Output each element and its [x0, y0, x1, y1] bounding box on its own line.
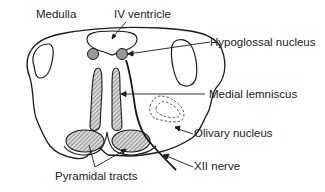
label-xii-nerve: XII nerve	[194, 161, 240, 173]
label-pyramidal-tracts: Pyramidal tracts	[55, 171, 137, 183]
leader-hypoglossal	[128, 42, 210, 54]
hypoglossal-nucleus-left	[88, 49, 99, 60]
hypoglossal-nucleus-right	[117, 49, 128, 60]
arrowhead-medial-lemniscus	[121, 92, 126, 97]
label-medial-lemniscus: Medial lemniscus	[209, 89, 297, 101]
olivary-nucleus-inner	[156, 102, 180, 118]
olivary-nucleus	[150, 96, 184, 122]
pyramidal-tract-left	[66, 130, 104, 152]
leader-pyramidal-right	[95, 150, 125, 167]
label-hypoglossal-nucleus: Hypoglossal nucleus	[210, 37, 315, 49]
label-olivary-nucleus: Olivary nucleus	[194, 128, 273, 140]
medial-lemniscus-left	[90, 68, 102, 131]
figure-title: Medulla	[36, 9, 76, 21]
medial-lemniscus-right	[112, 68, 122, 131]
left-lateral-oval	[33, 44, 53, 78]
label-iv-ventricle: IV ventricle	[114, 9, 171, 21]
arrowhead-hypoglossal	[128, 51, 133, 56]
